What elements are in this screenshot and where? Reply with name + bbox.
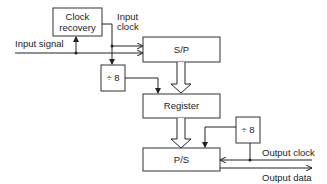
input-clock-line bbox=[102, 24, 112, 64]
sp-label: S/P bbox=[174, 44, 189, 55]
output-data-label: Output data bbox=[262, 172, 312, 183]
register-block: Register bbox=[143, 94, 220, 118]
input-clock-label-2: clock bbox=[117, 21, 139, 32]
clock-recovery-label-1: Clock bbox=[66, 11, 90, 22]
output-clock-label: Output clock bbox=[262, 147, 315, 158]
clock-recovery-label-2: recovery bbox=[59, 22, 96, 33]
block-diagram: Clock recovery Input signal Input clock … bbox=[0, 0, 327, 184]
bus-arrow-register-to-ps bbox=[171, 118, 191, 148]
div-to-ps-line bbox=[205, 127, 236, 147]
divide-by-8-output-block: ÷ 8 bbox=[236, 117, 260, 143]
input-signal-label: Input signal bbox=[15, 38, 64, 49]
bus-arrow-sp-to-register bbox=[171, 62, 191, 93]
div-to-register-line bbox=[125, 78, 158, 93]
register-label: Register bbox=[164, 100, 199, 111]
divide-by-8-input-block: ÷ 8 bbox=[101, 65, 125, 91]
divide-by-8-output-label: ÷ 8 bbox=[241, 124, 254, 135]
ps-label: P/S bbox=[174, 154, 189, 165]
ps-block: P/S bbox=[143, 148, 220, 171]
sp-block: S/P bbox=[143, 37, 220, 62]
divide-by-8-input-label: ÷ 8 bbox=[106, 72, 119, 83]
clock-recovery-block: Clock recovery bbox=[53, 8, 102, 36]
